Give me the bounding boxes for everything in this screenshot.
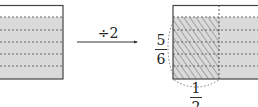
fraction-bar <box>155 49 167 50</box>
numerator: 1 <box>192 81 201 95</box>
left-rectangle <box>0 6 63 80</box>
denominator: 6 <box>157 52 166 66</box>
fraction-bar <box>190 97 202 98</box>
fraction-five-sixths: 5 6 <box>155 33 167 66</box>
denominator: 2 <box>192 100 201 107</box>
fraction-one-half: 1 2 <box>190 81 202 107</box>
operation-label: ÷2 <box>96 26 120 40</box>
numerator: 5 <box>157 33 166 47</box>
right-rectangle <box>168 5 258 87</box>
fraction-diagram <box>0 0 258 107</box>
